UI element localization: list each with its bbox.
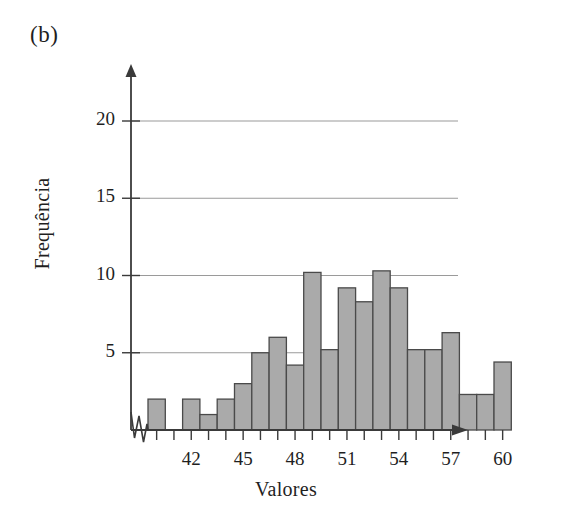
histogram-bar xyxy=(217,399,234,430)
x-tick-label-54: 54 xyxy=(379,448,419,470)
histogram-bar xyxy=(373,271,390,430)
histogram-bar xyxy=(183,399,200,430)
histogram-bar xyxy=(235,384,252,430)
y-tick-label-10: 10 xyxy=(71,263,115,285)
histogram-bar xyxy=(286,365,303,430)
x-tick-label-42: 42 xyxy=(171,448,211,470)
histogram-bar xyxy=(252,353,269,430)
y-axis-title: Frequência xyxy=(31,134,54,314)
histogram-bar xyxy=(148,399,165,430)
x-tick-label-57: 57 xyxy=(431,448,471,470)
gridlines-group xyxy=(131,121,458,353)
histogram-bar xyxy=(408,350,425,430)
histogram-bar xyxy=(321,350,338,430)
histogram-figure: (b) 5101520 42454851545760 Frequência Va… xyxy=(0,0,572,523)
histogram-bar xyxy=(269,337,286,430)
histogram-plot xyxy=(0,0,572,523)
histogram-bar xyxy=(425,350,442,430)
y-tick-label-20: 20 xyxy=(71,108,115,130)
bars-group xyxy=(148,271,511,430)
y-axis-arrow-icon xyxy=(126,64,137,77)
histogram-bar xyxy=(356,302,373,430)
histogram-bar xyxy=(390,288,407,430)
x-tick-label-45: 45 xyxy=(223,448,263,470)
x-tick-label-60: 60 xyxy=(483,448,523,470)
x-axis-title: Valores xyxy=(0,478,572,501)
x-tick-label-48: 48 xyxy=(275,448,315,470)
histogram-bar xyxy=(442,333,459,430)
histogram-bar xyxy=(494,362,511,430)
y-tick-label-5: 5 xyxy=(71,340,115,362)
histogram-bar xyxy=(304,272,321,430)
x-axis-break-icon xyxy=(131,412,148,442)
x-tick-label-51: 51 xyxy=(327,448,367,470)
histogram-bar xyxy=(459,394,476,430)
histogram-bar xyxy=(200,415,217,430)
y-tick-label-15: 15 xyxy=(71,185,115,207)
histogram-bar xyxy=(338,288,355,430)
histogram-bar xyxy=(477,394,494,430)
x-tick-marks-group xyxy=(157,430,503,440)
